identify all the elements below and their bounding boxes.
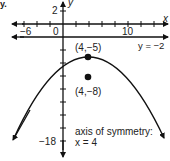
vertex-label: (4,−5)	[75, 42, 101, 53]
y-axis-label: y	[67, 0, 74, 8]
x-axis	[12, 21, 168, 27]
vertex-point	[85, 54, 92, 61]
tick-label-2: 2	[52, 5, 58, 16]
directrix-label: y = −2	[138, 40, 164, 51]
problem-label: y.	[0, 0, 7, 9]
tick-label-neg6: −6	[20, 26, 32, 37]
x-axis-label: x	[162, 13, 169, 24]
y-axis	[60, 2, 66, 157]
tick-label-neg18: −18	[39, 136, 56, 147]
axis-of-symmetry-label: axis of symmetry:	[75, 126, 153, 137]
tick-label-0: 0	[53, 26, 59, 37]
focus-label: (4,−8)	[75, 86, 101, 97]
axis-of-symmetry-equation: x = 4	[75, 137, 97, 148]
tick-label-10: 10	[122, 26, 134, 37]
parabola-graph: y.	[0, 0, 170, 161]
focus-point	[85, 74, 92, 81]
